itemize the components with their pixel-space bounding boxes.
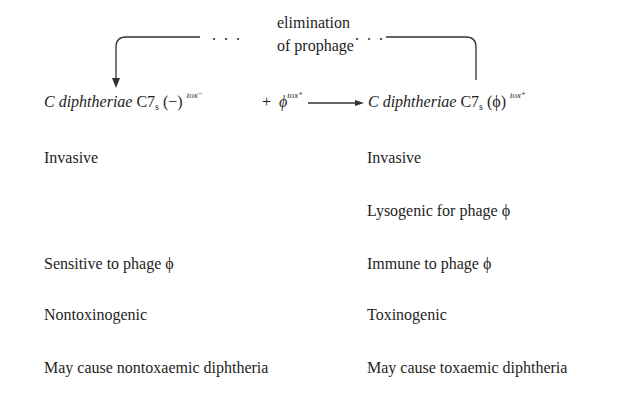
strain: C7 <box>136 93 155 110</box>
species: diphtheriae <box>383 93 457 110</box>
elimination-label: elimination <box>277 14 350 32</box>
left-property-nontoxinogenic: Nontoxinogenic <box>44 306 147 324</box>
tox-minus-superscript: tox⁻ <box>187 90 203 100</box>
right-property-invasive: Invasive <box>367 149 421 167</box>
lysogenic-strain: C diphtheriae C7s (ϕ) tox⁺ <box>368 93 526 111</box>
left-property-invasive: Invasive <box>44 149 98 167</box>
left-property-sensitive: Sensitive to phage ϕ <box>44 255 174 273</box>
phage-state: (ϕ) <box>487 93 506 110</box>
plus-sign: + <box>262 93 271 111</box>
right-property-toxinogenic: Toxinogenic <box>367 306 447 324</box>
strain: C7 <box>460 93 479 110</box>
genus: C <box>44 93 55 110</box>
prophage-elimination-connector <box>0 0 632 417</box>
left-property-nontoxaemic: May cause nontoxaemic diphtheria <box>44 359 268 377</box>
right-property-toxaemic: May cause toxaemic diphtheria <box>367 359 567 377</box>
right-property-immune: Immune to phage ϕ <box>367 255 491 273</box>
right-property-lysogenic: Lysogenic for phage ϕ <box>367 202 510 220</box>
phage-state: (−) <box>163 93 183 110</box>
dots-left: . . . <box>212 26 242 44</box>
prophage-label: of prophage <box>277 37 354 55</box>
lysogen-free-strain: C diphtheriae C7s (−) tox⁻ <box>44 93 202 111</box>
species: diphtheriae <box>59 93 133 110</box>
strain-subscript: s <box>155 101 159 112</box>
strain-subscript: s <box>479 101 483 112</box>
tox-plus-superscript: tox⁺ <box>510 90 526 100</box>
phage-tox-superscript: tox⁺ <box>287 90 303 100</box>
phage-tox-plus: ϕtox⁺ <box>279 93 303 111</box>
genus: C <box>368 93 379 110</box>
dots-right: . . . <box>355 26 385 44</box>
